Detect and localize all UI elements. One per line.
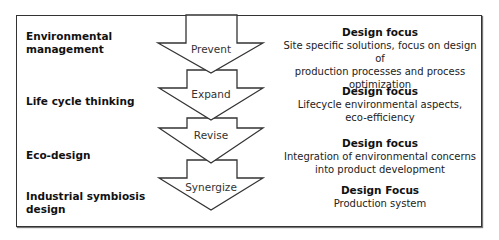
- design-focus-heading: Design focus: [280, 137, 480, 150]
- arrow-expand-label: Expand: [191, 88, 230, 100]
- design-focus-4: Design Focus Production system: [280, 184, 480, 210]
- arrow-synergize-label: Synergize: [185, 181, 237, 193]
- design-focus-heading: Design Focus: [280, 184, 480, 197]
- design-focus-1: Design focus Site specific solutions, fo…: [280, 26, 480, 91]
- design-focus-line: Site specific solutions, focus on design…: [280, 39, 480, 65]
- design-focus-line: Production system: [280, 197, 480, 210]
- design-focus-line: Lifecycle environmental aspects,: [280, 98, 480, 111]
- arrow-revise-label: Revise: [194, 129, 228, 141]
- design-focus-3: Design focus Integration of environmenta…: [280, 137, 480, 176]
- arrow-prevent-label: Prevent: [191, 43, 231, 55]
- design-focus-2: Design focus Lifecycle environmental asp…: [280, 85, 480, 124]
- design-focus-line: eco-efficiency: [280, 111, 480, 124]
- design-focus-line: Integration of environmental concerns: [280, 150, 480, 163]
- design-focus-line: production processes and process: [280, 65, 480, 78]
- design-focus-line: into product development: [280, 163, 480, 176]
- design-focus-heading: Design focus: [280, 85, 480, 98]
- design-focus-heading: Design focus: [280, 26, 480, 39]
